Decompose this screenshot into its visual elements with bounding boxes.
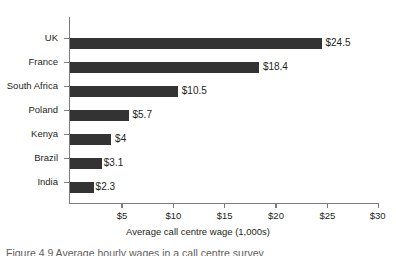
category-label-india: India [37,176,58,188]
x-axis-tick [327,203,328,208]
bar-uk [70,38,322,49]
category-label-uk: UK [45,32,58,44]
bar-value-india: $2.3 [96,180,115,194]
category-label-south-africa: South Africa [7,80,58,92]
bar-india [70,182,94,193]
x-axis-tick-label: $30 [370,210,386,222]
category-label-poland: Poland [28,104,58,116]
x-axis-tick [378,203,379,208]
x-axis-tick [224,203,225,208]
plot-area: $24.5 $18.4 $10.5 $5.7 $4 $3.1 $2.3 [70,17,378,203]
bar-value-france: $18.4 [263,60,288,74]
bar-south-africa [70,86,178,97]
category-label-kenya: Kenya [31,128,58,140]
bar-chart-figure: UK France South Africa Poland Kenya Braz… [0,0,396,256]
x-axis-tick-label: $25 [319,210,335,222]
bar-value-uk: $24.5 [326,36,351,50]
bar-value-kenya: $4 [115,132,126,146]
figure-caption: Figure 4.9 Average hourly wages in a cal… [6,247,390,256]
bar-value-poland: $5.7 [133,108,152,122]
bar-kenya [70,134,111,145]
x-axis-tick-label: $10 [165,210,181,222]
bar-brazil [70,158,102,169]
x-axis-tick-label: $15 [217,210,233,222]
x-axis-title: Average call centre wage (1,000s) [0,226,396,238]
bar-value-south-africa: $10.5 [182,84,207,98]
x-axis-tick-label: $5 [117,210,128,222]
bar-value-brazil: $3.1 [104,156,123,170]
x-axis-tick [121,203,122,208]
bar-france [70,62,259,73]
category-label-france: France [28,56,58,68]
x-axis-tick-label: $20 [268,210,284,222]
category-label-brazil: Brazil [34,152,58,164]
x-axis-tick [173,203,174,208]
x-axis-tick [275,203,276,208]
bar-poland [70,110,129,121]
